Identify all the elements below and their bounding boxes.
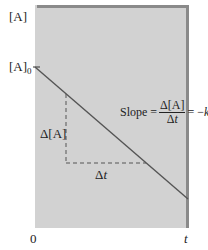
y0-label: [A]0 (9, 59, 32, 76)
slope-rhs: = −k (187, 105, 208, 120)
slope-lhs: Slope = (120, 105, 157, 120)
y-axis-label: [A] (9, 9, 27, 25)
slope-fraction: Δ[A] Δt (159, 99, 185, 126)
x-axis-label: t (184, 231, 188, 247)
y0-label-sub: 0 (27, 66, 32, 76)
delta-a-label: Δ[A] (40, 126, 66, 142)
delta-t-var: t (103, 167, 107, 182)
x-origin-label: 0 (30, 231, 37, 247)
slope-denominator: Δt (167, 113, 178, 126)
slope-equation: Slope = Δ[A] Δt = −k (120, 99, 208, 126)
delta-t-label: Δt (95, 167, 107, 183)
y0-label-main: [A] (9, 59, 27, 74)
slope-numerator: Δ[A] (159, 99, 185, 113)
